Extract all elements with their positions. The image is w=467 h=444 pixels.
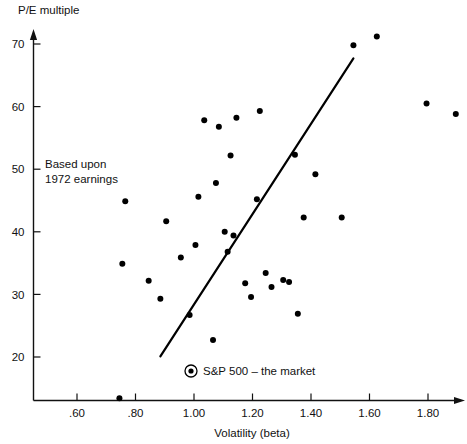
y-tick-label: 60 xyxy=(12,101,25,113)
legend-marker-dot-icon xyxy=(188,368,193,373)
data-point xyxy=(295,311,301,317)
data-point xyxy=(122,198,128,204)
y-tick-label: 20 xyxy=(12,351,25,363)
y-axis-arrowhead xyxy=(30,29,37,40)
data-point xyxy=(187,312,193,318)
x-tick-label: .60 xyxy=(69,407,85,419)
data-point xyxy=(216,124,222,130)
data-point xyxy=(163,218,169,224)
x-tick-label: .80 xyxy=(128,407,144,419)
data-point xyxy=(230,233,236,239)
x-axis-arrowhead xyxy=(454,397,465,404)
data-point xyxy=(225,249,231,255)
legend-label: S&P 500 – the market xyxy=(203,365,316,377)
y-tick-label: 50 xyxy=(12,163,25,175)
data-point xyxy=(453,111,459,117)
data-point xyxy=(242,280,248,286)
data-point xyxy=(269,284,275,290)
data-point xyxy=(286,279,292,285)
data-point xyxy=(339,214,345,220)
data-point xyxy=(192,242,198,248)
data-point xyxy=(312,171,318,177)
y-tick-label: 30 xyxy=(12,289,25,301)
data-point xyxy=(263,270,269,276)
data-point xyxy=(374,33,380,39)
x-tick-label: 1.60 xyxy=(358,407,380,419)
data-point xyxy=(210,337,216,343)
data-point xyxy=(424,100,430,106)
data-point xyxy=(157,296,163,302)
y-tick-label: 40 xyxy=(12,226,25,238)
axes-group xyxy=(30,29,465,404)
data-point xyxy=(257,108,263,114)
chart-annotation-line: Based upon xyxy=(45,158,106,170)
data-point xyxy=(116,395,122,401)
data-point xyxy=(146,278,152,284)
data-point xyxy=(178,254,184,260)
x-axis-title: Volatility (beta) xyxy=(214,427,290,439)
data-point xyxy=(350,42,356,48)
y-axis-title: P/E multiple xyxy=(18,4,79,16)
chart-annotation-line: 1972 earnings xyxy=(45,173,118,185)
x-tick-label: 1.20 xyxy=(241,407,263,419)
x-tick-label: 1.40 xyxy=(300,407,322,419)
data-point xyxy=(292,152,298,158)
tick-label-group: 203040506070.60.801.001.201.401.601.80 xyxy=(12,38,439,418)
trend-line-group xyxy=(160,58,353,356)
x-tick-label: 1.00 xyxy=(183,407,205,419)
scatter-chart: 203040506070.60.801.001.201.401.601.80 P… xyxy=(0,0,467,444)
data-point xyxy=(222,229,228,235)
plot-svg: 203040506070.60.801.001.201.401.601.80 P… xyxy=(0,0,467,444)
x-tick-label: 1.80 xyxy=(417,407,439,419)
y-tick-label: 70 xyxy=(12,38,25,50)
data-point xyxy=(254,196,260,202)
data-point xyxy=(119,261,125,267)
data-point xyxy=(213,180,219,186)
trend-line xyxy=(160,58,353,356)
data-point xyxy=(248,294,254,300)
data-point xyxy=(201,117,207,123)
data-point xyxy=(233,115,239,121)
data-point xyxy=(301,214,307,220)
data-point xyxy=(280,277,286,283)
tick-group xyxy=(34,44,429,401)
data-point xyxy=(228,152,234,158)
data-point xyxy=(195,194,201,200)
